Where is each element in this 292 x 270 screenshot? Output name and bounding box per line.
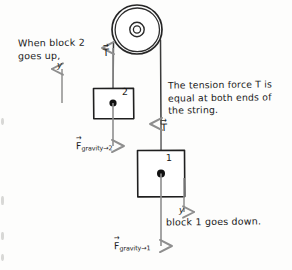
pulley-group [112, 5, 162, 54]
tension-symbol-block1: T [161, 122, 167, 133]
axis-label-left-y: y [57, 60, 63, 70]
force-label-gravity-block1: Fgravity→1 [114, 240, 151, 253]
scan-artifact-speck [1, 118, 4, 125]
tension-label-block1: T [161, 122, 167, 133]
force-subscript-block2: gravity→2 [81, 144, 112, 153]
force-label-gravity-block2: Fgravity→2 [76, 140, 113, 153]
scan-artifact-speck [1, 196, 4, 205]
scan-artifact-speck [1, 254, 4, 261]
force-symbol-block1: F [114, 240, 120, 251]
force-symbol-block2: F [76, 140, 82, 151]
note-block-1-goes-down: block 1 goes down. [166, 215, 261, 229]
block-1-label: 1 [166, 152, 172, 163]
block-2-label: 2 [122, 86, 128, 97]
note-tension-equal: The tension force T is equal at both end… [168, 78, 273, 117]
physics-diagram-canvas: When block 2 goes up, The tension force … [0, 0, 292, 270]
pulley-hub-inner [133, 26, 140, 33]
scan-artifact-speck [1, 232, 4, 240]
axis-label-right-y: y [179, 205, 185, 215]
force-subscript-block1: gravity→1 [119, 244, 150, 253]
note-block-2-goes-up: When block 2 goes up, [18, 37, 85, 63]
tension-symbol-block2: T [103, 47, 109, 58]
tension-label-block2: T [103, 47, 109, 58]
